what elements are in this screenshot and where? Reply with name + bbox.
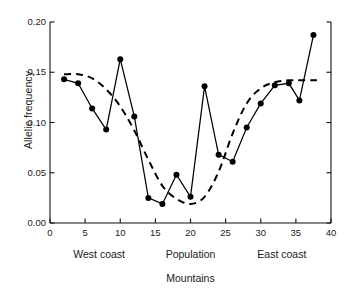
- data-point-marker: [310, 32, 316, 38]
- x-tick-label: 0: [34, 227, 66, 238]
- chart-figure: Allelic frequency 0.000.050.100.150.2005…: [0, 0, 355, 300]
- x-tick-label: 35: [280, 227, 312, 238]
- y-tick-label: 0.20: [4, 16, 46, 27]
- data-point-marker: [89, 105, 95, 111]
- x-tick-label: 10: [104, 227, 136, 238]
- observed-data-polyline: [64, 35, 313, 204]
- x-tick-label: 20: [175, 227, 207, 238]
- data-point-marker: [258, 100, 264, 106]
- data-point-marker: [230, 159, 236, 165]
- data-point-marker: [61, 76, 67, 82]
- data-point-marker: [131, 113, 137, 119]
- fitted-cline-dashed-curve: [64, 74, 317, 204]
- x-tick-label: 25: [210, 227, 242, 238]
- x-tick-label: 40: [315, 227, 347, 238]
- x-axis-caption: Mountains: [131, 272, 251, 284]
- data-point-marker: [117, 56, 123, 62]
- data-point-marker: [173, 172, 179, 178]
- data-point-marker: [159, 201, 165, 207]
- y-tick-label: 0.05: [4, 167, 46, 178]
- region-label-west: West coast: [49, 248, 149, 260]
- data-point-marker: [296, 97, 302, 103]
- x-tick-label: 15: [139, 227, 171, 238]
- x-tick-label: 5: [69, 227, 101, 238]
- data-point-marker: [145, 195, 151, 201]
- data-point-marker: [188, 194, 194, 200]
- data-point-marker: [216, 152, 222, 158]
- region-label-population: Population: [141, 248, 241, 260]
- data-point-marker: [202, 83, 208, 89]
- data-point-marker: [103, 127, 109, 133]
- y-tick-label: 0.15: [4, 66, 46, 77]
- data-point-marker: [244, 125, 250, 131]
- x-tick-label: 30: [245, 227, 277, 238]
- data-series-group: [61, 32, 317, 207]
- data-point-marker: [75, 80, 81, 86]
- region-label-east: East coast: [232, 248, 332, 260]
- y-tick-label: 0.10: [4, 117, 46, 128]
